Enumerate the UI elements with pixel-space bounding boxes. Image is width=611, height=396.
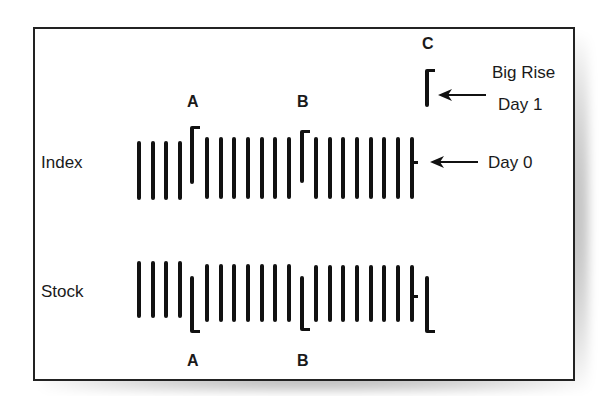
annotation-day0: Day 0 — [488, 153, 532, 173]
stock-bar — [151, 261, 155, 318]
stock-bar — [232, 264, 236, 322]
stock-bar — [190, 276, 194, 333]
stock-bar — [382, 265, 386, 322]
index-bar-flag — [192, 126, 200, 129]
index-bar — [410, 137, 414, 199]
stock-bar — [410, 265, 414, 322]
index-bar — [246, 137, 250, 199]
marker-b-bottom: B — [297, 352, 309, 370]
arrow-left-icon-day1 — [436, 88, 488, 102]
index-bar — [232, 137, 236, 199]
stock-bar — [328, 265, 332, 322]
index-bar — [151, 141, 155, 200]
stock-bar — [246, 264, 250, 322]
diagram-canvas: Index Stock A B C A B Big Rise Day 1 Day… — [0, 0, 611, 396]
marker-b-top: B — [297, 93, 309, 111]
index-bar — [190, 126, 194, 184]
index-bar — [355, 137, 359, 199]
index-bar — [328, 137, 332, 199]
index-bar — [137, 141, 141, 200]
stock-bar-flag — [192, 330, 200, 333]
index-bar — [369, 137, 373, 199]
row-label-stock: Stock — [41, 282, 84, 302]
stock-bar — [219, 264, 223, 322]
index-bar — [425, 69, 429, 107]
stock-bar — [273, 264, 277, 322]
marker-a-bottom: A — [187, 352, 199, 370]
index-bar — [273, 137, 277, 199]
stock-bar — [178, 261, 182, 318]
stock-bar — [287, 264, 291, 322]
stock-bar — [137, 261, 141, 318]
index-bar — [396, 137, 400, 199]
stock-bar — [341, 265, 345, 322]
index-bar — [219, 137, 223, 199]
row-label-index: Index — [41, 153, 83, 173]
marker-a-top: A — [187, 93, 199, 111]
annotation-day1: Day 1 — [498, 95, 542, 115]
stock-bar — [396, 265, 400, 322]
index-bar — [314, 137, 318, 199]
stock-bar — [300, 276, 304, 331]
annotation-big-rise: Big Rise — [492, 63, 555, 83]
stock-bar-tick — [412, 295, 418, 298]
stock-bar — [260, 264, 264, 322]
stock-bar-flag — [427, 330, 435, 333]
stock-bar — [425, 276, 429, 333]
index-bar — [341, 137, 345, 199]
stock-bar — [314, 265, 318, 322]
stock-bar-flag — [302, 328, 310, 331]
stock-bar — [164, 261, 168, 318]
index-bar — [382, 137, 386, 199]
index-bar — [178, 141, 182, 200]
stock-bar — [355, 265, 359, 322]
index-bar-flag — [427, 69, 435, 72]
index-bar — [287, 137, 291, 199]
index-bar — [300, 130, 304, 183]
marker-c-top: C — [422, 35, 434, 53]
index-bar — [260, 137, 264, 199]
arrow-left-icon-day0 — [428, 155, 480, 169]
stock-bar — [369, 265, 373, 322]
index-bar — [205, 137, 209, 199]
index-bar-tick — [412, 161, 418, 164]
index-bar — [164, 141, 168, 200]
stock-bar — [205, 264, 209, 322]
index-bar-flag — [302, 130, 310, 133]
